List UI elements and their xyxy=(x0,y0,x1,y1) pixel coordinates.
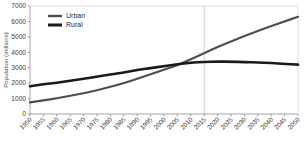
x-tick-label: 2015 xyxy=(192,115,207,130)
x-tick-label: 1995 xyxy=(139,115,154,130)
x-tick-label: 2035 xyxy=(246,115,261,130)
y-tick-label: 4000 xyxy=(11,49,26,56)
legend-label-urban: Urban xyxy=(66,12,85,19)
x-tick-label: 1980 xyxy=(98,115,113,130)
x-tick-label: 2050 xyxy=(286,115,301,130)
legend-label-rural: Rural xyxy=(66,21,83,28)
y-tick-label: 0 xyxy=(22,110,26,117)
x-tick-label: 1960 xyxy=(45,115,60,130)
x-tick-label: 2000 xyxy=(152,115,167,130)
x-tick-label: 1950 xyxy=(18,115,33,130)
x-tick-label: 1985 xyxy=(112,115,127,130)
x-tick-label: 2020 xyxy=(206,115,221,130)
x-tick-label: 2010 xyxy=(179,115,194,130)
x-tick-label: 2005 xyxy=(165,115,180,130)
population-line-chart: 01000200030004000500060007000Population … xyxy=(0,0,306,145)
x-tick-label: 1955 xyxy=(31,115,46,130)
y-tick-label: 5000 xyxy=(11,33,26,40)
y-tick-label: 7000 xyxy=(11,2,26,9)
x-tick-label: 2030 xyxy=(232,115,247,130)
x-tick-label: 1965 xyxy=(58,115,73,130)
x-tick-label: 1970 xyxy=(72,115,87,130)
series-line-rural xyxy=(30,62,298,87)
y-tick-label: 1000 xyxy=(11,95,26,102)
y-tick-label: 6000 xyxy=(11,18,26,25)
y-axis-title: Population (millions) xyxy=(2,32,9,88)
x-tick-label: 1975 xyxy=(85,115,100,130)
y-tick-label: 3000 xyxy=(11,64,26,71)
x-tick-label: 2045 xyxy=(273,115,288,130)
x-tick-label: 1990 xyxy=(125,115,140,130)
x-tick-label: 2040 xyxy=(259,115,274,130)
chart-canvas: 01000200030004000500060007000Population … xyxy=(0,0,306,145)
y-tick-label: 2000 xyxy=(11,79,26,86)
series-line-urban xyxy=(30,17,298,103)
x-tick-label: 2025 xyxy=(219,115,234,130)
